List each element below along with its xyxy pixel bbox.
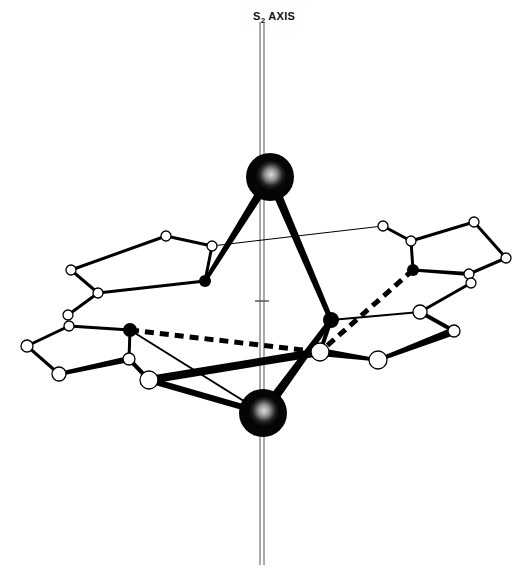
bond-N3-C17 [331, 311, 420, 321]
bond-C1-C2 [166, 235, 213, 248]
carbon-atom-C16 [466, 278, 476, 288]
bond-C13-C14 [473, 221, 507, 259]
carbon-atom-C13 [469, 217, 479, 227]
carbon-atom-C15 [464, 269, 474, 279]
donor-atom-N3 [323, 312, 339, 328]
dashed-bonds [130, 270, 413, 352]
dashed-bond-N4-C19 [320, 270, 413, 352]
donor-atom-N1 [199, 275, 211, 287]
donor-atom-N2 [123, 323, 137, 337]
metal-atom-M1 [246, 153, 294, 201]
atoms [21, 153, 511, 437]
carbon-atom-C18 [448, 325, 460, 337]
bond-N1-C4 [98, 280, 205, 295]
carbon-atom-C6 [64, 321, 74, 331]
carbon-atom-C5 [63, 310, 73, 320]
s2-axis-line [255, 22, 269, 565]
metal-atom-M2 [239, 389, 287, 437]
carbon-atom-C14 [501, 253, 511, 263]
molecule-diagram [0, 0, 525, 575]
carbon-atom-C19 [311, 343, 329, 361]
carbon-atom-C1 [161, 231, 171, 241]
carbon-atom-C12 [406, 236, 416, 246]
bond-C18-C20 [377, 327, 455, 362]
carbon-atom-C17 [413, 305, 427, 319]
carbon-atom-C3 [66, 265, 76, 275]
carbon-atom-C9 [123, 353, 135, 365]
carbon-atom-C10 [140, 371, 158, 389]
carbon-atom-C4 [93, 288, 103, 298]
donor-atom-N4 [407, 264, 419, 276]
bond-C12-C13 [411, 221, 475, 243]
carbon-atom-C2 [207, 241, 217, 251]
bond-C16-C17 [419, 282, 471, 314]
bond-N4-C15 [413, 269, 469, 276]
carbon-atom-C8 [52, 367, 66, 381]
bond-C1-C3 [70, 235, 166, 272]
carbon-atom-C20 [369, 351, 387, 369]
bond-C6-N2 [69, 325, 130, 332]
bond-C8-C9 [59, 356, 130, 376]
carbon-atom-C11 [378, 221, 388, 231]
carbon-atom-C7 [21, 340, 33, 352]
